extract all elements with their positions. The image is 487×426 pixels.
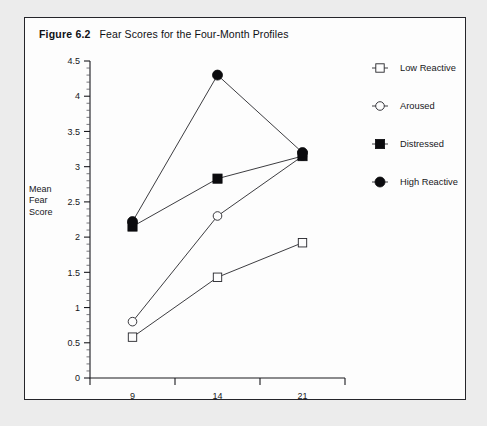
legend-item-label: High Reactive [400,177,458,187]
chart-series [128,70,308,341]
y-tick-label: 2 [75,232,80,242]
data-point-filled-circle [213,70,223,80]
y-tick-label: 0.5 [67,338,80,348]
y-tick-label: 2.5 [67,197,80,207]
data-point-filled-circle [298,148,308,158]
y-tick-label: 0 [75,373,80,383]
figure-frame: Figure 6.2Fear Scores for the Four-Month… [24,17,466,400]
data-point-open-square [376,64,384,72]
y-axis-title-line: Score [29,207,53,217]
y-tick-label: 3.5 [67,127,80,137]
x-tick-label: 9 [130,391,135,401]
y-axis-title: MeanFearScore [29,184,53,217]
legend-item-label: Aroused [400,101,435,111]
data-point-open-square [298,239,306,247]
y-axis-ticks: 00.511.522.533.544.5 [67,56,90,383]
y-axis-title-line: Fear [29,195,48,205]
legend-item-aroused: Aroused [372,101,435,111]
data-point-open-square [128,333,136,341]
chart-plot-area: 00.511.522.533.544.5 91421 MeanFearScore… [25,18,467,401]
series-high-reactive [128,70,308,227]
y-tick-label: 4.5 [67,56,80,66]
chart-legend: Low ReactiveArousedDistressedHigh Reacti… [372,63,458,187]
x-axis-ticks: 91421 [90,378,345,401]
legend-item-low-reactive: Low Reactive [372,63,456,73]
data-point-filled-circle [128,217,138,227]
data-point-open-circle [376,102,385,111]
legend-item-distressed: Distressed [372,139,444,149]
y-axis-title-line: Mean [29,184,52,194]
series-low-reactive [128,239,306,342]
x-tick-label: 21 [297,391,307,401]
y-tick-label: 1 [75,303,80,313]
y-tick-label: 1.5 [67,268,80,278]
legend-item-high-reactive: High Reactive [372,177,458,187]
data-point-open-square [213,273,221,281]
data-point-open-circle [213,212,222,221]
fear-scores-line-chart: 00.511.522.533.544.5 91421 MeanFearScore… [25,18,467,401]
y-tick-label: 4 [75,91,80,101]
legend-item-label: Distressed [400,139,444,149]
data-point-filled-circle [375,177,385,187]
data-point-filled-square [375,139,384,148]
legend-item-label: Low Reactive [400,63,456,73]
y-tick-label: 3 [75,162,80,172]
data-point-open-circle [128,317,137,326]
x-tick-label: 14 [212,391,222,401]
data-point-filled-square [213,174,222,183]
